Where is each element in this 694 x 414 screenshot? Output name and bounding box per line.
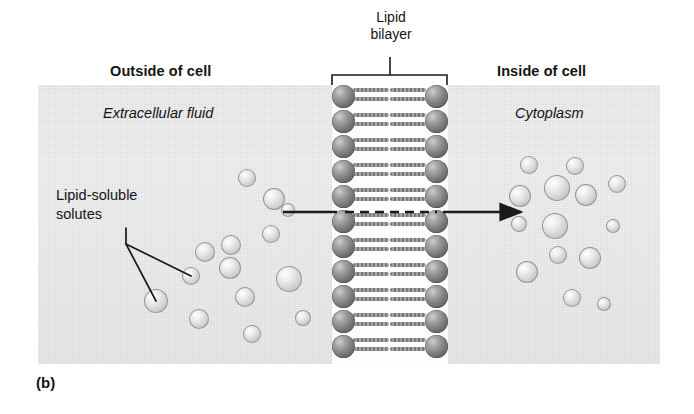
cytoplasm-label: Cytoplasm: [515, 105, 584, 121]
leader-line-lower: [126, 244, 156, 301]
inside-of-cell-label: Inside of cell: [497, 63, 586, 79]
bracket-span: [332, 75, 447, 85]
solute-leader-lines: [126, 228, 191, 301]
figure-letter: (b): [36, 374, 55, 391]
lipid-soluble-solutes-label: Lipid-soluble solutes: [56, 186, 137, 224]
lipid-bilayer-label-line2: bilayer: [339, 26, 443, 43]
extracellular-fluid-label: Extracellular fluid: [103, 105, 213, 121]
lipid-bilayer-label-line1: Lipid: [339, 9, 443, 26]
solutes-label-line1: Lipid-soluble: [56, 186, 137, 205]
outside-of-cell-label: Outside of cell: [110, 63, 211, 79]
bilayer-bracket: [332, 57, 447, 85]
leader-line-upper: [126, 228, 191, 276]
lipid-bilayer-label: Lipid bilayer: [339, 9, 443, 43]
diffusion-figure: Outside of cell Inside of cell Lipid bil…: [0, 0, 694, 414]
solutes-label-line2: solutes: [56, 205, 137, 224]
